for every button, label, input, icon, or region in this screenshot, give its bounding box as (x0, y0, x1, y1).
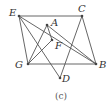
label-a: A (50, 17, 58, 28)
geometry-figure: ECAFGBD (c) (0, 0, 111, 105)
figure-labels: ECAFGBD (8, 3, 106, 84)
point-b (95, 63, 98, 66)
label-b: B (98, 59, 106, 70)
label-c: C (78, 3, 86, 14)
segment-cd (60, 16, 82, 78)
label-g: G (15, 59, 23, 70)
label-e: E (8, 7, 17, 18)
point-g (27, 63, 30, 66)
label-d: D (61, 73, 70, 84)
segment-ga (28, 25, 47, 64)
label-f: F (54, 40, 63, 51)
point-f (51, 39, 54, 42)
point-d (59, 77, 62, 80)
point-c (81, 15, 84, 18)
figure-caption: (c) (55, 91, 67, 101)
point-e (18, 15, 21, 18)
point-a (46, 24, 49, 27)
